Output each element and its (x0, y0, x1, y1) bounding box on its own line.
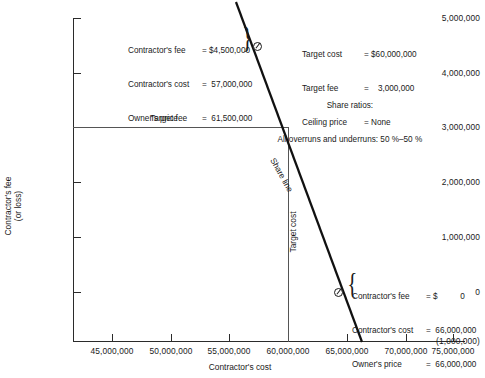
y-axis-title: Contractor's fee(or loss) (3, 161, 23, 251)
y-tick-2000000 (73, 182, 81, 183)
annotation-value: = $60,000,000 (364, 50, 417, 59)
annotation-row: Owner's price= 61,500,000 (128, 113, 252, 124)
annotation-share-ratios: Share ratios: All overruns and underruns… (278, 77, 423, 168)
annotation-row: Contractor's cost= 66,000,000 (352, 325, 476, 336)
annotation-label: Owner's price (128, 113, 202, 124)
y-tick-0 (73, 292, 81, 293)
annotation-label: Contractor's fee (128, 45, 202, 56)
y-tick-5000000 (73, 18, 81, 19)
annotation-row: Target cost= $60,000,000 (302, 49, 417, 60)
y-tick-neg1000000 (73, 341, 81, 342)
y-tick-label-5000000: 5,000,000 (414, 13, 480, 23)
data-point-marker-upper (253, 42, 262, 51)
annotation-row: Contractor's fee= $ 0 (352, 291, 476, 302)
annotation-lower-point: Contractor's fee= $ 0 Contractor's cost=… (352, 268, 476, 378)
data-point-marker-lower (334, 288, 343, 297)
annotation-row: Owner's price= 66,000,000 (352, 359, 476, 370)
target-cost-label: Target cost (288, 187, 298, 277)
annotation-upper-point: Contractor's fee= $4,500,000 Contractor'… (128, 22, 252, 147)
x-tick-50000000 (171, 334, 172, 342)
annotation-label: Contractor's fee (352, 291, 426, 302)
y-axis-line (73, 18, 74, 342)
annotation-value: = 66,000,000 (426, 359, 476, 370)
y-tick-label-3000000: 3,000,000 (414, 122, 480, 132)
annotation-label: Owner's price (352, 359, 426, 370)
x-tick-55000000 (229, 334, 230, 342)
annotation-label: Contractor's cost (352, 325, 426, 336)
annotation-value: = $ 0 (426, 291, 465, 302)
annotation-value: = 61,500,000 (202, 113, 252, 124)
y-axis-title-line1: Contractor's fee (3, 177, 13, 236)
x-tick-65000000 (347, 334, 348, 342)
y-tick-label-1000000: 1,000,000 (414, 232, 480, 242)
x-tick-45000000 (112, 334, 113, 342)
annotation-label: Target cost (302, 49, 364, 60)
y-tick-1000000 (73, 237, 81, 238)
annotation-label: Contractor's cost (128, 79, 202, 90)
annotation-value: = $4,500,000 (202, 45, 250, 56)
y-tick-label-4000000: 4,000,000 (414, 68, 480, 78)
y-tick-4000000 (73, 73, 81, 74)
annotation-row: Contractor's cost= 57,000,000 (128, 79, 252, 90)
annotation-value: = 66,000,000 (426, 325, 476, 336)
y-tick-label-2000000: 2,000,000 (414, 177, 480, 187)
annotation-row: Contractor's fee= $4,500,000 (128, 45, 252, 56)
annotation-value: = 57,000,000 (202, 79, 252, 90)
share-ratios-title: Share ratios: (278, 100, 423, 111)
share-ratios-text: All overruns and underruns: 50 %–50 % (278, 134, 423, 145)
y-axis-title-line2: (or loss) (13, 191, 23, 221)
